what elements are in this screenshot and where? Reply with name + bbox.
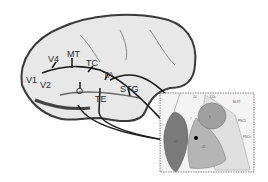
frontal-cortex-inset: 10 CDs BLST PNC1 PNCv 45 44 6 7 bbox=[160, 93, 254, 172]
inset-label: 44 bbox=[202, 145, 206, 149]
target-dot bbox=[194, 136, 198, 140]
label-v2: V2 bbox=[40, 80, 51, 90]
label-o: O bbox=[76, 86, 83, 96]
label-v4: V4 bbox=[48, 54, 59, 64]
label-ta: TA bbox=[103, 70, 114, 80]
inset-label: 45 bbox=[174, 140, 178, 144]
inset-label: PNC1 bbox=[238, 119, 246, 123]
inset-label: PNCv bbox=[243, 135, 251, 139]
brain-diagram: V1 V2 V4 MT TC TA O TE STG 10 CDs BLST P… bbox=[0, 0, 268, 182]
inset-label: 10 bbox=[193, 95, 197, 99]
inset-label: BLST bbox=[233, 100, 241, 104]
label-stg: STG bbox=[120, 84, 139, 94]
label-te: TE bbox=[95, 94, 107, 104]
label-tc: TC bbox=[86, 58, 98, 68]
area-6 bbox=[198, 103, 226, 129]
inset-label: CDs bbox=[210, 95, 216, 99]
label-v1: V1 bbox=[26, 75, 37, 85]
label-mt: MT bbox=[67, 49, 80, 59]
